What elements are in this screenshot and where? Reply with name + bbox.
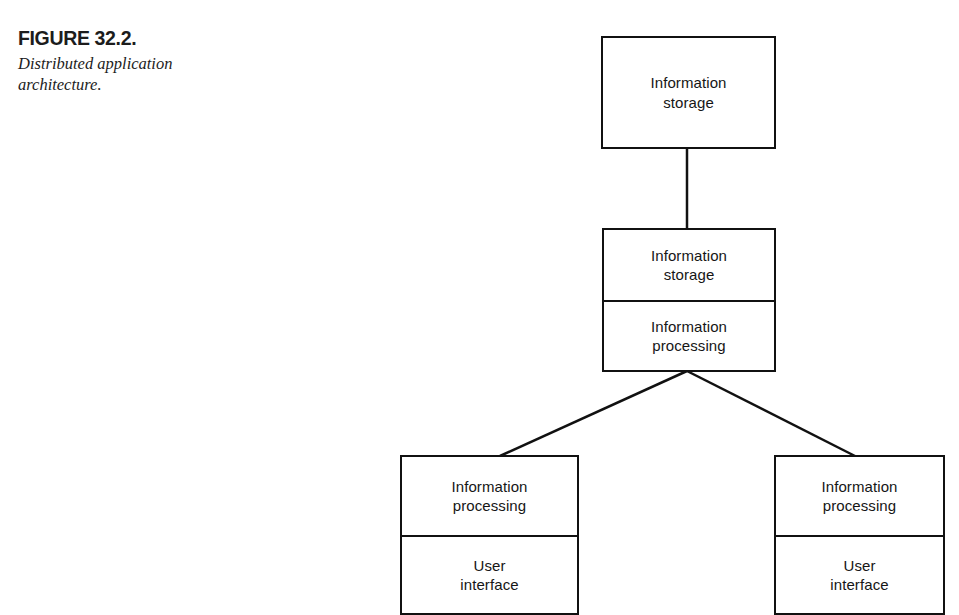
- node-client-tier-left[interactable]: Information processing User interface: [400, 455, 579, 615]
- compartment-line-1: Information: [650, 73, 726, 92]
- node-information-storage-tier[interactable]: Information storage: [601, 36, 776, 149]
- compartment-information-processing: Information processing: [776, 457, 943, 535]
- compartment-user-interface: User interface: [776, 535, 943, 613]
- compartment-line-2: interface: [830, 575, 888, 594]
- compartment-line-1: Information: [651, 317, 727, 336]
- compartment-line-2: processing: [823, 496, 897, 515]
- compartment-line-2: processing: [652, 336, 726, 355]
- compartment-line-2: storage: [663, 93, 714, 112]
- compartment-line-1: Information: [451, 477, 527, 496]
- connector-middle-to-bottom-left: [500, 371, 687, 456]
- compartment-line-1: User: [843, 556, 875, 575]
- compartment-line-1: Information: [651, 246, 727, 265]
- compartment-line-2: processing: [453, 496, 527, 515]
- compartment-information-processing: Information processing: [604, 300, 774, 370]
- compartment-information-processing: Information processing: [402, 457, 577, 535]
- compartment-line-1: Information: [821, 477, 897, 496]
- compartment-line-2: interface: [460, 575, 518, 594]
- compartment-line-1: User: [473, 556, 505, 575]
- connector-middle-to-bottom-right: [687, 371, 855, 456]
- node-storage-and-processing-tier[interactable]: Information storage Information processi…: [602, 228, 776, 372]
- compartment-information-storage: Information storage: [604, 230, 774, 300]
- compartment-information-storage: Information storage: [603, 38, 774, 147]
- compartment-user-interface: User interface: [402, 535, 577, 613]
- node-client-tier-right[interactable]: Information processing User interface: [774, 455, 945, 615]
- compartment-line-2: storage: [664, 265, 715, 284]
